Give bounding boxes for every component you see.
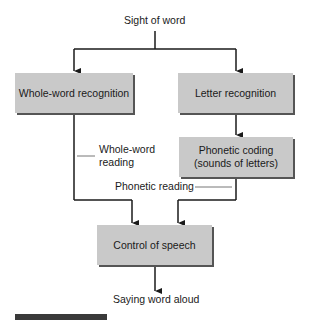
node-label: Letter recognition bbox=[195, 87, 276, 100]
edge-label-whole-word-reading-2: reading bbox=[99, 156, 134, 168]
edge-label-phonetic-reading: Phonetic reading bbox=[115, 180, 194, 192]
node-label: Whole-word recognition bbox=[19, 87, 129, 100]
output-label-saying-word-aloud: Saying word aloud bbox=[113, 293, 199, 305]
node-label-line2: (sounds of letters) bbox=[194, 157, 278, 170]
caption-bar bbox=[15, 314, 107, 320]
node-control-of-speech: Control of speech bbox=[97, 225, 212, 265]
node-letter-recognition: Letter recognition bbox=[178, 73, 293, 113]
node-phonetic-coding: Phonetic coding (sounds of letters) bbox=[179, 137, 293, 177]
edge-label-whole-word-reading: Whole-word bbox=[99, 143, 155, 155]
node-whole-word-recognition: Whole-word recognition bbox=[15, 73, 133, 113]
node-label: Control of speech bbox=[113, 239, 195, 252]
node-label-line1: Phonetic coding bbox=[199, 144, 274, 157]
